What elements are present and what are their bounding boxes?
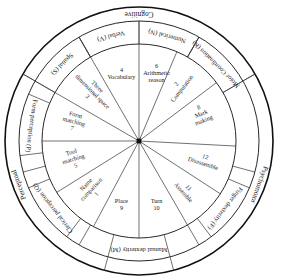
middle-ring-label-1: Numerical (N) — [147, 27, 186, 45]
segment-label-7: Formmatching7 — [60, 108, 88, 134]
outer-ring-divider — [170, 257, 174, 271]
wheel-svg: CognitivePerceptualPsychomotorVerbal (V)… — [0, 0, 282, 277]
middle-ring-divider — [35, 81, 55, 93]
segment-label-4: 4Vocabulary — [107, 66, 136, 80]
segment-label-12: 12Disassemble — [187, 148, 221, 171]
segment-label-10: Turn10 — [151, 197, 163, 211]
middle-ring-label-2: Spatial (S) — [50, 52, 75, 77]
middle-ring-divider — [23, 166, 45, 172]
wheel-geometry — [5, 7, 273, 275]
segment-spoke — [139, 141, 236, 146]
wheel-hub — [137, 139, 142, 144]
middle-ring-divider — [79, 225, 91, 245]
middle-ring-label-0: Verbal (V) — [96, 29, 125, 44]
middle-ring-label-5: Manual dexterity (M) — [110, 246, 167, 254]
outer-ring-divider — [243, 74, 255, 81]
segment-label-8: 8Markmaking — [188, 100, 213, 126]
segment-label-11: 11Assemble — [173, 176, 200, 204]
middle-ring-label-3: Form perception (P) — [24, 99, 39, 153]
segment-label-6: 6Arithmeticreason — [143, 62, 170, 83]
outer-ring-divider — [104, 257, 108, 271]
outer-ring-label-0: Cognitive — [124, 10, 154, 19]
segment-label-5: Toolmatching5 — [59, 145, 87, 172]
aptitude-wheel-diagram: CognitivePerceptualPsychomotorVerbal (V)… — [0, 0, 282, 277]
middle-ring-divider — [79, 37, 91, 57]
middle-ring-divider — [20, 153, 43, 156]
middle-ring-divider — [233, 166, 255, 172]
segment-label-1: Namecomparison1 — [73, 171, 108, 206]
middle-ring-label-4: Clerical perception (Q) — [31, 182, 75, 235]
middle-ring-divider — [188, 225, 200, 245]
outer-ring-divider — [23, 74, 35, 81]
segment-label-9: Place9 — [115, 197, 129, 211]
